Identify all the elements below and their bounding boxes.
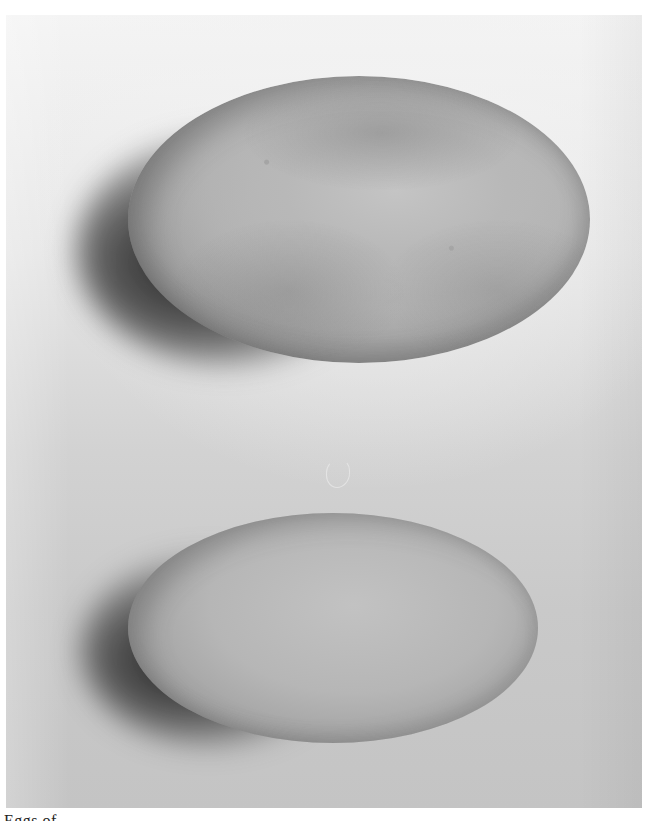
upper-egg: [128, 76, 590, 363]
stray-hair-mark: [326, 460, 350, 488]
page: Eggs of ...: [0, 0, 653, 821]
photo-caption: Eggs of ...: [4, 812, 75, 821]
egg-photograph: [6, 15, 642, 808]
lower-egg: [128, 513, 538, 743]
